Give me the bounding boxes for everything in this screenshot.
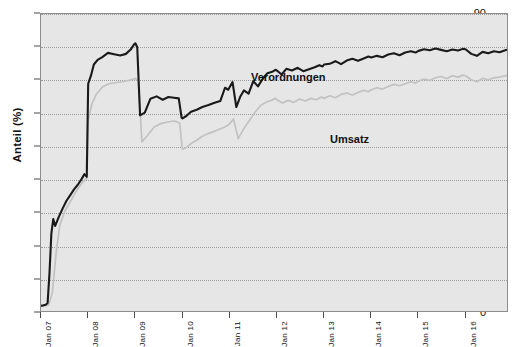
x-axis-tick-mark	[276, 312, 277, 318]
x-axis-tick-mark	[465, 312, 466, 318]
x-axis-tick-label: Jan 15	[421, 321, 430, 347]
x-axis-tick-mark	[417, 312, 418, 318]
x-axis-tick-mark	[40, 312, 41, 318]
x-axis-tick-label: Jan 08	[91, 321, 100, 347]
x-axis-tick-mark	[229, 312, 230, 318]
x-axis-tick-label: Jan 11	[233, 321, 242, 346]
x-axis-tick-label: Jan 09	[138, 321, 147, 347]
series-label-verordnungen: Verordnungen	[251, 71, 326, 83]
y-axis-title: Anteil (%)	[11, 70, 23, 200]
x-axis-tick-label: Jan 16	[469, 321, 478, 347]
series-lines	[41, 14, 508, 312]
line-umsatz	[41, 75, 508, 306]
x-axis-tick-mark	[134, 312, 135, 318]
x-axis-tick-mark	[370, 312, 371, 318]
x-axis-tick-label: Jan 14	[374, 321, 383, 347]
plot-area: Verordnungen Umsatz 79,4 71,6	[40, 13, 508, 312]
series-label-umsatz: Umsatz	[330, 133, 369, 145]
x-axis-tick-label: Jan 07	[44, 321, 53, 347]
x-axis-tick-mark	[87, 312, 88, 318]
x-axis-tick-mark	[182, 312, 183, 318]
x-axis-tick-label: Jan 10	[186, 321, 195, 347]
x-axis-tick-label: Jan 13	[327, 321, 336, 347]
x-axis-tick-label: Jan 12	[280, 321, 289, 347]
x-axis-tick-mark	[323, 312, 324, 318]
